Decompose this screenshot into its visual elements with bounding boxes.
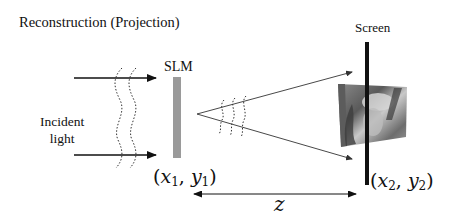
slm-coordinates: (x1, y1) (153, 167, 217, 188)
screen-label: Screen (355, 21, 390, 34)
coord-y: y (191, 165, 202, 187)
diagram-title: Reconstruction (Projection) (19, 15, 180, 30)
incident-light-label: Incident light (40, 113, 84, 147)
coord-x-sub: 2 (388, 179, 396, 193)
coord-y-sub: 1 (202, 175, 210, 189)
slm-bar (173, 77, 181, 158)
coord-y-sub: 2 (419, 179, 427, 193)
coord-x: x (377, 169, 388, 191)
coord-x: x (160, 165, 171, 187)
screen-bar (365, 42, 369, 185)
coord-x-sub: 1 (171, 175, 179, 189)
distance-label: z (274, 194, 285, 214)
incident-wavefronts (115, 68, 136, 168)
projected-image (338, 84, 407, 147)
slm-label: SLM (164, 60, 193, 74)
coord-y: y (408, 169, 419, 191)
screen-coordinates: (x2, y2) (370, 171, 434, 192)
incident-label-line2: light (40, 130, 84, 147)
holography-reconstruction-diagram: Reconstruction (Projection) SLM Screen I… (0, 0, 463, 221)
incident-label-line1: Incident (40, 113, 84, 130)
projection-cone (197, 72, 352, 159)
